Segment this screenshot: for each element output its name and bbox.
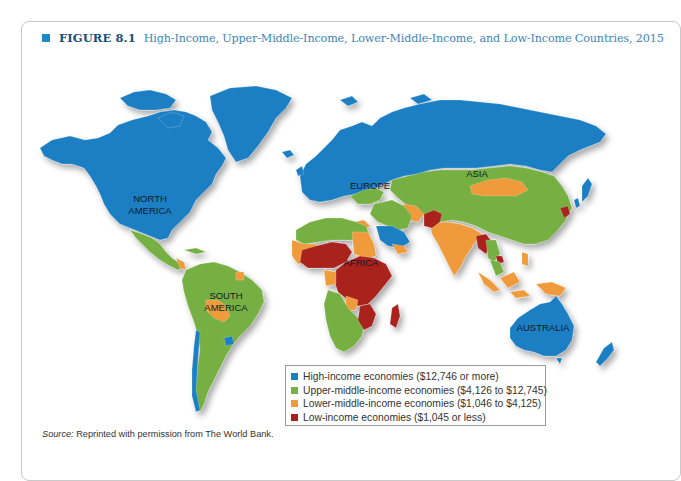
label-south-america-line2: AMERICA [196, 302, 256, 314]
label-africa: AFRICA [334, 257, 388, 269]
source-prefix: Source: [42, 429, 74, 439]
label-north-america-line2: AMERICA [120, 205, 180, 217]
region-south-america [182, 262, 264, 412]
legend-swatch-high [291, 373, 298, 380]
legend-item-lower-middle-income: Lower-middle-income economies ($1,046 to… [291, 397, 545, 411]
label-australia-text: AUSTRALIA [517, 322, 570, 333]
label-europe-text: EUROPE [350, 180, 390, 191]
label-south-america-line1: SOUTH [196, 290, 256, 302]
legend-item-high-income: High-income economies ($12,746 or more) [291, 370, 545, 384]
source-note: Source: Reprinted with permission from T… [42, 429, 274, 439]
label-asia-text: ASIA [466, 168, 488, 179]
label-africa-text: AFRICA [344, 257, 379, 268]
legend-swatch-upper-middle [291, 387, 298, 394]
label-asia: ASIA [452, 168, 502, 180]
legend-label: Lower-middle-income economies ($1,046 to… [303, 398, 541, 409]
label-australia: AUSTRALIA [508, 322, 578, 334]
label-europe: EUROPE [340, 180, 400, 192]
legend-item-low-income: Low-income economies ($1,045 or less) [291, 411, 545, 425]
legend-swatch-low [291, 414, 298, 421]
label-north-america: NORTH AMERICA [120, 193, 180, 217]
legend-label: Upper-middle-income economies ($4,126 to… [303, 385, 547, 396]
map-legend: High-income economies ($12,746 or more) … [285, 365, 546, 426]
legend-swatch-lower-middle [291, 400, 298, 407]
legend-item-upper-middle-income: Upper-middle-income economies ($4,126 to… [291, 384, 545, 398]
label-north-america-line1: NORTH [120, 193, 180, 205]
source-text: Reprinted with permission from The World… [74, 429, 274, 439]
legend-label: Low-income economies ($1,045 or less) [303, 412, 486, 423]
legend-label: High-income economies ($12,746 or more) [303, 371, 499, 382]
label-south-america: SOUTH AMERICA [196, 290, 256, 314]
